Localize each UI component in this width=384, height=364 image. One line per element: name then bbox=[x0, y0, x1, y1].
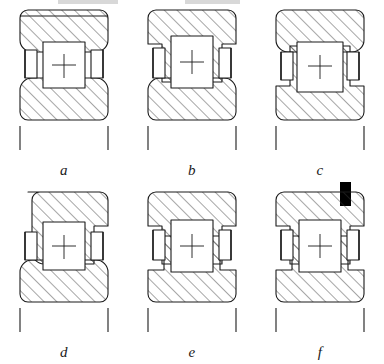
roller-right-f bbox=[347, 230, 359, 260]
roller-right-b bbox=[219, 48, 231, 78]
figure-label-c: c bbox=[256, 163, 384, 178]
figure-label-e: e bbox=[128, 345, 256, 360]
bearing-drawing-c bbox=[256, 0, 384, 182]
figure-label-f: f bbox=[256, 345, 384, 360]
roller-right-d bbox=[91, 232, 103, 260]
roller-right-e bbox=[219, 230, 231, 260]
roller-left-a bbox=[25, 50, 37, 78]
bearing-drawing-d bbox=[0, 182, 128, 364]
figure-label-a: a bbox=[0, 163, 128, 178]
roller-left-d bbox=[25, 232, 37, 260]
bearing-figure-e: e bbox=[128, 182, 256, 364]
roller-left-b bbox=[153, 48, 165, 78]
bearing-drawing-a bbox=[0, 0, 128, 182]
bearing-drawing-f bbox=[256, 182, 384, 364]
roller-right-a bbox=[91, 50, 103, 78]
bearing-figure-c: c bbox=[256, 0, 384, 182]
figure-label-b: b bbox=[128, 163, 256, 178]
roller-left-c bbox=[281, 52, 293, 80]
roller-left-f bbox=[281, 230, 293, 260]
bearing-figure-b: b bbox=[128, 0, 256, 182]
bearing-figure-a: a bbox=[0, 0, 128, 182]
figure-sheet: a bbox=[0, 0, 384, 364]
figure-label-d: d bbox=[0, 345, 128, 360]
bearing-figure-f: f bbox=[256, 182, 384, 364]
roller-left-e bbox=[153, 230, 165, 260]
bearing-drawing-b bbox=[128, 0, 256, 182]
roller-right-c bbox=[347, 52, 359, 80]
bearing-drawing-e bbox=[128, 182, 256, 364]
bearing-figure-d: d bbox=[0, 182, 128, 364]
